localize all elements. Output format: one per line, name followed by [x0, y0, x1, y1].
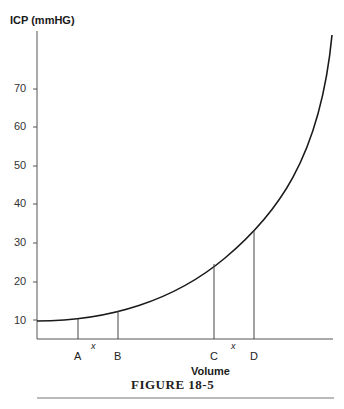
y-tick-40: 40 [14, 197, 26, 209]
interval-label-ab: x [90, 341, 96, 351]
interval-label-cd: x [230, 341, 236, 351]
y-tick-50: 50 [14, 159, 26, 171]
point-label-c: C [210, 350, 218, 362]
y-tick-70: 70 [14, 82, 26, 94]
y-tick-10: 10 [14, 314, 26, 326]
figure-caption: FIGURE 18-5 [131, 377, 214, 392]
point-label-a: A [74, 350, 82, 362]
x-axis-label: Volume [191, 365, 230, 377]
y-ticks: 70 60 50 40 30 20 10 [14, 82, 37, 326]
y-tick-20: 20 [14, 275, 26, 287]
point-label-d: D [250, 350, 258, 362]
y-axis-label: ICP (mmHG) [10, 14, 75, 26]
y-tick-30: 30 [14, 236, 26, 248]
y-tick-60: 60 [14, 120, 26, 132]
pressure-volume-curve [37, 35, 332, 321]
chart-figure: ICP (mmHG) 70 60 50 40 30 20 10 x x A B … [0, 0, 344, 409]
point-label-b: B [114, 350, 121, 362]
